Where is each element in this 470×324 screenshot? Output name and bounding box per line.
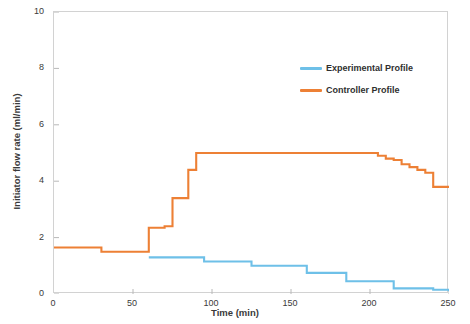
y-tick-label-10: 10	[18, 6, 44, 16]
y-tick-label-4: 4	[18, 175, 44, 185]
y-tick-label-0: 0	[18, 288, 44, 298]
y-tick-label-2: 2	[18, 232, 44, 242]
legend-swatch-controller	[300, 89, 322, 92]
legend-entry-controller: Controller Profile	[300, 85, 413, 95]
legend-entry-experimental: Experimental Profile	[300, 63, 413, 73]
legend-swatch-experimental	[300, 67, 322, 70]
chart-figure: 10 8 6 4 2 0 0 50 100 150 200 250 Time (…	[0, 0, 470, 324]
plot-canvas	[54, 12, 449, 294]
chart-legend: Experimental Profile Controller Profile	[300, 63, 413, 95]
series-line-controller	[54, 153, 449, 252]
y-tick-label-6: 6	[18, 119, 44, 129]
series-line-experimental	[149, 257, 449, 291]
legend-label-controller: Controller Profile	[326, 85, 400, 95]
legend-label-experimental: Experimental Profile	[326, 63, 413, 73]
plot-area	[53, 11, 448, 293]
y-tick-label-8: 8	[18, 62, 44, 72]
x-axis-title: Time (min)	[0, 307, 470, 318]
y-axis-title: Initiator flow rate (ml/min)	[11, 52, 22, 252]
